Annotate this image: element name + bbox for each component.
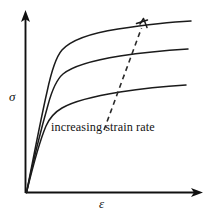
stress-strain-curve-low — [27, 85, 187, 193]
stress-strain-figure: σ ε increasing strain rate — [0, 0, 213, 216]
increasing-rate-dashed-line — [104, 28, 142, 130]
y-axis-label-sigma: σ — [9, 90, 15, 103]
figure-canvas — [0, 0, 213, 216]
x-axis-label-epsilon: ε — [99, 197, 104, 210]
stress-strain-curve-high — [27, 21, 192, 193]
increasing-strain-rate-label: increasing strain rate — [51, 121, 155, 133]
